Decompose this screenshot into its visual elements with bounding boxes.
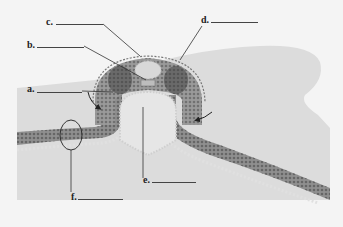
label-c: c. (46, 17, 53, 27)
label-e: e. (143, 175, 150, 185)
label-d: d. (201, 15, 209, 25)
blank-f (78, 199, 123, 200)
blank-c (56, 24, 103, 25)
blank-e (152, 182, 196, 183)
center-bridge (141, 80, 155, 86)
label-b: b. (27, 40, 35, 50)
leader-line-c (103, 24, 140, 56)
right-cell-cluster-dots (164, 66, 188, 94)
label-a: a. (27, 84, 35, 94)
blank-a (37, 92, 82, 93)
blank-b (37, 47, 84, 48)
diagram-canvas (0, 0, 343, 227)
label-f: f. (71, 192, 77, 202)
blank-d (211, 22, 258, 23)
